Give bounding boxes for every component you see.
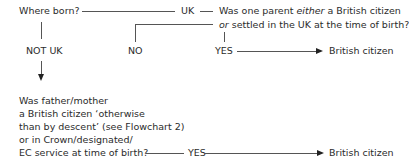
question-parent-status-line1: Was one parent either a British citizen — [219, 5, 401, 16]
connector-line — [41, 22, 42, 39]
label-not-uk: NOT UK — [26, 45, 63, 56]
arrow-right-icon — [317, 150, 324, 156]
question-parent-line3: than by descent’ (see Flowchart 2) — [19, 121, 184, 132]
question-parent-line4: or in Crown/designated/ — [19, 134, 133, 145]
question-parent-line1: Was father/mother — [19, 95, 108, 106]
question-where-born: Where born? — [19, 5, 79, 16]
connector-line — [82, 11, 175, 12]
connector-line — [146, 153, 184, 154]
question-parent-line5: EC service at time of birth? — [19, 147, 148, 158]
question-parent-status-line2: or settled in the UK at the time of birt… — [219, 19, 409, 30]
label-yes: YES — [188, 147, 206, 158]
arrow-right-icon — [316, 48, 323, 54]
result-british-citizen: British citizen — [329, 45, 394, 56]
connector-line — [41, 61, 42, 75]
label-no: NO — [128, 45, 143, 56]
connector-line — [237, 51, 316, 52]
connector-line — [135, 24, 136, 42]
result-british-citizen: British citizen — [329, 147, 394, 158]
arrow-down-icon — [38, 74, 44, 81]
connector-line — [224, 32, 225, 42]
question-parent-line2: a British citizen ‘otherwise — [19, 108, 145, 119]
label-yes: YES — [215, 45, 233, 56]
label-uk: UK — [181, 5, 194, 16]
connector-line — [200, 24, 213, 25]
connector-line — [205, 153, 318, 154]
connector-line — [200, 11, 213, 12]
